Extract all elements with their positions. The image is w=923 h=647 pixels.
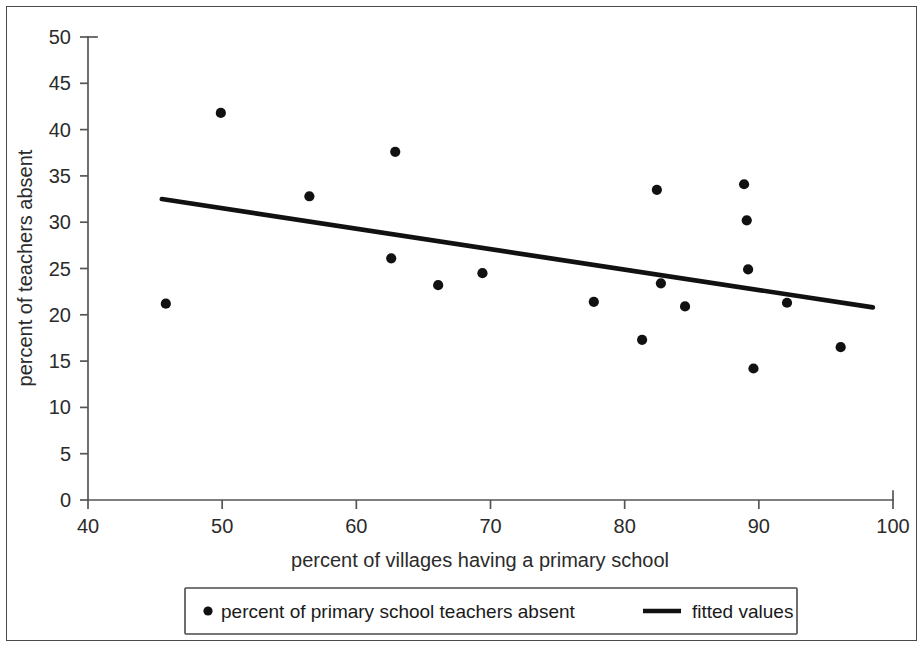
data-point [743,264,753,274]
legend-label-fitted: fitted values [692,601,793,622]
data-point [589,297,599,307]
x-tick-label: 80 [614,515,636,537]
data-point [748,363,758,373]
data-point [433,280,443,290]
fitted-values-line [162,199,873,307]
data-point [656,278,666,288]
x-axis-tick-labels: 405060708090100 [77,515,910,537]
x-tick-label: 90 [748,515,770,537]
chart-figure: 05101520253035404550 405060708090100 per… [0,0,923,647]
x-tick-label: 60 [345,515,367,537]
data-point [386,253,396,263]
data-point [304,191,314,201]
y-tick-label: 15 [49,350,71,372]
data-point [390,147,400,157]
legend-dot-icon [203,606,212,615]
x-tick-label: 40 [77,515,99,537]
y-tick-label: 35 [49,165,71,187]
x-tick-label: 50 [211,515,233,537]
y-tick-label: 20 [49,304,71,326]
data-point [637,335,647,345]
y-tick-label: 5 [60,443,71,465]
scatter-points [161,108,846,374]
x-axis-ticks [88,500,893,509]
data-point [836,342,846,352]
data-point [216,108,226,118]
data-point [742,215,752,225]
x-tick-label: 70 [479,515,501,537]
y-axis-title: percent of teachers absent [14,149,36,386]
data-point [652,185,662,195]
y-tick-label: 50 [49,26,71,48]
y-tick-label: 30 [49,211,71,233]
data-point [477,268,487,278]
y-tick-label: 45 [49,72,71,94]
scatter-plot: 05101520253035404550 405060708090100 per… [0,0,923,647]
data-point [161,299,171,309]
x-axis-title: percent of villages having a primary sch… [291,549,669,571]
y-tick-label: 25 [49,258,71,280]
y-axis-tick-labels: 05101520253035404550 [49,26,71,511]
data-point [680,301,690,311]
x-tick-label: 100 [876,515,909,537]
data-point [782,298,792,308]
y-tick-label: 10 [49,396,71,418]
regression-line [162,199,873,307]
data-point [739,179,749,189]
legend: percent of primary school teachers absen… [185,588,797,634]
y-tick-label: 0 [60,489,71,511]
y-tick-label: 40 [49,119,71,141]
y-axis-ticks [80,37,88,500]
legend-label-points: percent of primary school teachers absen… [221,601,576,622]
